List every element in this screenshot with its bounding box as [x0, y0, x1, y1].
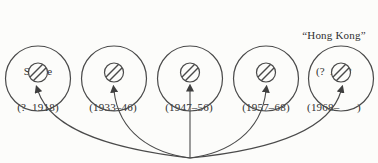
inner-hatched-circle [105, 63, 124, 82]
inner-hatched-circle [29, 63, 48, 82]
virus-particle-swine [6, 46, 71, 111]
virus-particle-a0 [82, 46, 147, 111]
origin-arrows [38, 90, 341, 158]
inner-hatched-circle [181, 63, 200, 82]
influenza-strain-diagram: Swine (? 1918) A₀ (1933–46) A₁ (1947–56)… [0, 0, 378, 163]
inner-hatched-circle [257, 63, 276, 82]
virus-particle-a2 [234, 46, 299, 111]
origin-arrow-a0 [114, 91, 190, 158]
virus-particle-hong-kong [309, 46, 374, 111]
inner-hatched-circle [332, 63, 351, 82]
strain-diagram-canvas [0, 0, 378, 163]
